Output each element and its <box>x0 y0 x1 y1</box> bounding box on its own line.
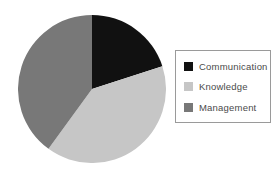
legend-item-management: Management <box>184 102 270 113</box>
legend-swatch-communication <box>184 62 193 71</box>
pie-chart <box>18 15 166 163</box>
legend-label-communication: Communication <box>199 61 268 72</box>
legend: Communication Knowledge Management <box>175 50 271 123</box>
legend-item-knowledge: Knowledge <box>184 81 270 92</box>
legend-label-management: Management <box>199 102 256 113</box>
legend-label-knowledge: Knowledge <box>199 81 248 92</box>
legend-swatch-management <box>184 103 193 112</box>
legend-swatch-knowledge <box>184 82 193 91</box>
pie-chart-svg <box>18 15 166 163</box>
legend-item-communication: Communication <box>184 61 270 72</box>
